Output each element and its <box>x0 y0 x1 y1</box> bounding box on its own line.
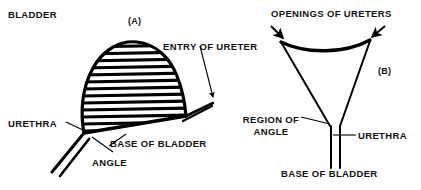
label-base-of-bladder-a: BASE OF BLADDER <box>110 138 207 149</box>
label-bladder: BLADDER <box>8 9 57 20</box>
label-region-of-angle-line2: ANGLE <box>240 126 302 137</box>
arrow-left-ureteric-orifice <box>271 26 283 38</box>
figure-drawing <box>0 0 421 190</box>
arrow-right-ureteric-orifice <box>372 26 385 37</box>
ureter-entry-stub <box>186 103 213 116</box>
label-urethra-b: URETHRA <box>358 130 407 141</box>
label-panel-a-tag: (A) <box>128 16 141 27</box>
label-panel-b-tag: (B) <box>378 66 391 77</box>
label-angle: ANGLE <box>92 157 127 168</box>
trigone-wall-right <box>340 41 370 126</box>
anatomical-figure: BLADDER (A) ENTRY OF URETER URETHRA BASE… <box>0 0 421 190</box>
label-openings-of-ureters: OPENINGS OF URETERS <box>271 8 392 19</box>
label-entry-of-ureter: ENTRY OF URETER <box>163 41 257 52</box>
label-urethra-a: URETHRA <box>8 118 57 129</box>
panel-a-drawing <box>52 36 213 176</box>
interureteric-ridge <box>281 40 370 51</box>
label-base-of-bladder-b: BASE OF BLADDER <box>281 168 378 179</box>
panel-b-drawing <box>271 26 385 168</box>
leader-urethra-a <box>66 122 83 130</box>
leader-entry-of-ureter <box>200 46 213 97</box>
label-region-of-angle-line1: REGION OF <box>240 114 302 125</box>
